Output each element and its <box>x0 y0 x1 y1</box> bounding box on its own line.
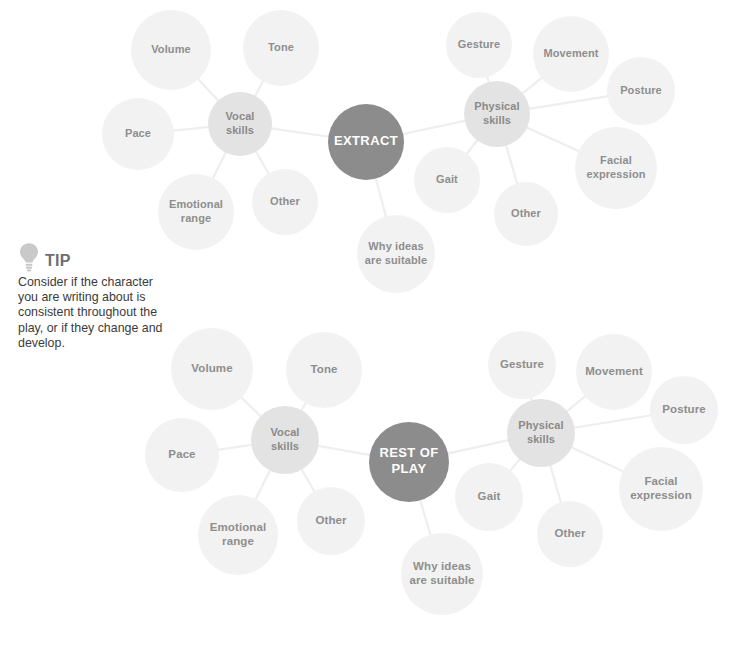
node-tone-bottom: Tone <box>286 332 362 408</box>
connector-line <box>574 415 652 428</box>
node-label: Volume <box>191 362 232 374</box>
node-physical-skills-top: Physicalskills <box>464 81 530 147</box>
node-label: Why ideasare suitable <box>365 240 427 265</box>
node-pace-top: Pace <box>102 98 174 170</box>
connector-line <box>255 151 269 174</box>
node-posture-bottom: Posture <box>650 376 718 444</box>
node-label: Posture <box>662 403 706 415</box>
node-volume-top: Volume <box>131 10 211 90</box>
node-vocal-skills-bottom: Vocalskills <box>251 406 319 474</box>
node-label: Other <box>315 514 347 526</box>
node-label: Tone <box>268 41 294 53</box>
node-extract-map-core: EXTRACT <box>328 104 404 180</box>
connector-line <box>218 445 253 450</box>
tip-body-text: Consider if the character you are writin… <box>18 275 168 351</box>
connector-line <box>550 465 561 504</box>
node-rest-of-play-map-core: REST OFPLAY <box>369 422 449 502</box>
connector-line <box>529 96 609 109</box>
node-gait-bottom: Gait <box>455 463 523 531</box>
node-label: Gait <box>436 173 458 185</box>
node-label: Volume <box>151 43 191 55</box>
node-label: Tone <box>310 363 337 375</box>
connector-line <box>255 81 264 97</box>
node-facial-expression-top: Facialexpression <box>575 127 657 209</box>
node-label: Other <box>511 207 541 219</box>
node-label: Vocalskills <box>270 426 299 451</box>
connector-line <box>420 499 431 535</box>
node-volume-bottom: Volume <box>171 328 253 410</box>
connector-line <box>566 396 585 412</box>
connector-line <box>301 402 306 411</box>
node-movement-bottom: Movement <box>576 334 652 410</box>
node-other-bottom: Other <box>537 501 603 567</box>
connector-line <box>447 440 509 454</box>
connector-line <box>198 79 219 102</box>
node-label: Pace <box>125 127 151 139</box>
tip-callout: TIP Consider if the character you are wr… <box>18 240 180 351</box>
node-tone-top: Tone <box>243 10 319 86</box>
node-vocal-skills-top: Vocalskills <box>208 92 272 156</box>
connector-line <box>173 127 209 131</box>
node-why-ideas-bottom: Why ideasare suitable <box>401 533 483 615</box>
node-gesture-bottom: Gesture <box>488 331 556 399</box>
node-other-vocal-bottom: Other <box>297 487 365 555</box>
connector-line <box>526 127 579 151</box>
connector-line <box>510 459 520 472</box>
connector-line <box>213 152 227 179</box>
node-gait-top: Gait <box>414 147 480 213</box>
node-facial-expression-bottom: Facialexpression <box>619 447 703 531</box>
connector-line <box>466 140 477 155</box>
connector-line <box>487 76 489 83</box>
connector-line <box>317 446 370 455</box>
tip-header: TIP <box>18 240 180 272</box>
connector-line <box>571 447 624 472</box>
nodes-group: VolumeTonePaceEmotionalrangeOtherGesture… <box>102 10 718 615</box>
node-label: Posture <box>620 84 662 96</box>
connector-line <box>402 121 466 135</box>
node-label: Gesture <box>500 358 544 370</box>
node-other-physical-top: Other <box>494 182 558 246</box>
node-label: EXTRACT <box>334 133 398 148</box>
node-emotional-range-bottom: Emotionalrange <box>198 495 278 575</box>
connector-line <box>271 128 330 136</box>
connector-line <box>506 145 517 184</box>
connector-line <box>255 470 270 500</box>
node-label: Gait <box>478 490 501 502</box>
node-why-ideas-top: Why ideasare suitable <box>357 215 435 293</box>
lightbulb-icon <box>18 242 40 272</box>
node-movement-top: Movement <box>533 16 609 92</box>
node-pace-bottom: Pace <box>145 418 219 492</box>
node-label: Movement <box>543 47 598 59</box>
connector-line <box>522 77 542 94</box>
node-label: Vocalskills <box>225 110 254 135</box>
node-label: Pace <box>168 448 195 460</box>
node-other-vocal-top: Other <box>252 169 318 235</box>
connector-line <box>241 397 262 417</box>
node-label: Movement <box>585 365 643 377</box>
node-label: Gesture <box>458 38 500 50</box>
node-physical-skills-bottom: Physicalskills <box>507 399 575 467</box>
node-posture-top: Posture <box>607 57 675 125</box>
connector-line <box>376 178 387 218</box>
connector-line <box>301 469 314 493</box>
node-gesture-top: Gesture <box>446 12 512 78</box>
node-label: Other <box>270 195 300 207</box>
node-emotional-range-top: Emotionalrange <box>158 174 234 250</box>
node-label: Other <box>554 527 586 539</box>
tip-title: TIP <box>45 252 71 272</box>
